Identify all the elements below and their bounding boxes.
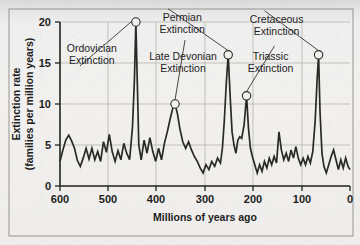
annotation-layer: OrdovicianExtinctionLate DevonianExtinct… [67, 9, 323, 108]
extinction-label-line2: Extinction [254, 25, 300, 37]
y-axis-title-line2: (families per million years) [23, 38, 35, 170]
extinction-event-marker [224, 51, 232, 59]
x-axis: 600 500 400 300 200 100 0 [51, 186, 353, 205]
x-axis-title: Millions of years ago [153, 211, 257, 223]
y-tick-0: 0 [45, 180, 51, 192]
extinction-label-line1: Cretaceous [250, 13, 304, 25]
x-tick-500: 500 [99, 193, 117, 205]
extinction-label-line2: Extinction [160, 62, 206, 74]
extinction-label-line1: Permian [163, 11, 202, 23]
x-tick-600: 600 [51, 193, 69, 205]
y-axis: 20 15 10 5 0 [39, 16, 60, 192]
extinction-event-marker [242, 92, 250, 100]
extinction-label-line1: Triassic [253, 50, 289, 62]
y-tick-10: 10 [39, 98, 51, 110]
x-tick-300: 300 [196, 193, 214, 205]
y-axis-title-line1: Extinction rate [10, 67, 22, 140]
figure-background [0, 0, 360, 245]
x-tick-0: 0 [347, 193, 353, 205]
y-axis-title: Extinction rate (families per million ye… [10, 38, 35, 170]
x-tick-100: 100 [293, 193, 311, 205]
extinction-label-line1: Late Devonian [149, 50, 217, 62]
extinction-label-line2: Extinction [248, 62, 294, 74]
extinction-rate-chart: 20 15 10 5 0 Extinction rate (families p… [0, 0, 360, 245]
x-tick-200: 200 [244, 193, 262, 205]
extinction-label-line2: Extinction [159, 23, 205, 35]
y-tick-5: 5 [45, 139, 51, 151]
extinction-rate-figure: 20 15 10 5 0 Extinction rate (families p… [0, 0, 360, 245]
y-tick-20: 20 [39, 16, 51, 28]
extinction-label-line2: Extinction [69, 54, 115, 66]
extinction-event-marker [314, 51, 322, 59]
extinction-label-line1: Ordovician [67, 42, 117, 54]
extinction-event-marker [171, 100, 179, 108]
y-tick-15: 15 [39, 57, 51, 69]
x-tick-400: 400 [147, 193, 165, 205]
extinction-event-marker [132, 18, 140, 26]
